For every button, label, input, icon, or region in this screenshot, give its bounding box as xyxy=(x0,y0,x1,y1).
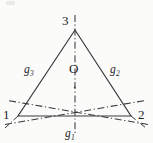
axis-label-g2: g2 xyxy=(110,64,120,76)
center-point-marker xyxy=(74,86,76,88)
axis-label-g1-base: g xyxy=(65,127,71,139)
axis-label-g2-base: g xyxy=(110,63,116,75)
vertex-label-1: 1 xyxy=(3,108,10,121)
vertex-label-3: 3 xyxy=(62,14,69,27)
axis-label-g2-subscript: 2 xyxy=(116,69,120,78)
axis-label-g1-subscript: 1 xyxy=(71,133,75,142)
axis-label-g3-base: g xyxy=(24,63,30,75)
axis-label-g1: g1 xyxy=(65,128,75,140)
center-label-o: O xyxy=(69,62,78,75)
vertex-label-2: 2 xyxy=(138,108,145,121)
axis-label-g3: g3 xyxy=(24,64,34,76)
axis-label-g3-subscript: 3 xyxy=(30,69,34,78)
geometry-figure: 3 1 2 O g1 g2 g3 xyxy=(0,0,153,143)
